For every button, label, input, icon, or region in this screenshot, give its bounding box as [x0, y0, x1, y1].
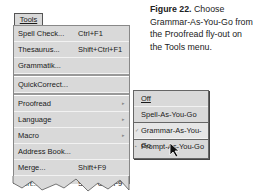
menu-item-grammatik[interactable]: Grammatik...	[14, 58, 129, 74]
menu-item-label: Merge...	[18, 163, 46, 172]
flyout-item-off[interactable]: Off	[134, 91, 208, 107]
menu-item-label: Off	[141, 94, 151, 103]
menu-item-label: Macro	[18, 131, 39, 140]
menu-item-label: Proofread	[18, 99, 51, 108]
submenu-arrow-icon: ▸	[122, 96, 125, 111]
flyout-item-grammar-as-you-go[interactable]: ✓ Grammar-As-You-Go	[134, 123, 208, 139]
figure-number: Figure 22.	[150, 4, 192, 14]
menu-item-label: Thesaurus...	[18, 45, 60, 54]
tools-menu-label: Tools	[20, 15, 38, 24]
shortcut-label: Shift+Ctrl+F1	[78, 42, 122, 57]
torn-edge-decoration	[12, 176, 130, 193]
menu-item-thesaurus[interactable]: Thesaurus... Shift+Ctrl+F1	[14, 42, 129, 58]
submenu-arrow-icon: ▸	[122, 128, 125, 143]
shortcut-label: Shift+F9	[78, 160, 106, 175]
menu-item-quickcorrect[interactable]: QuickCorrect...	[14, 77, 129, 93]
figure-caption: Figure 22. Choose Grammar-As-You-Go from…	[150, 3, 253, 53]
menu-item-label: Language	[18, 115, 51, 124]
check-icon: ✓	[135, 123, 139, 138]
menu-item-address-book[interactable]: Address Book...	[14, 144, 129, 160]
flyout-item-spell-as-you-go[interactable]: Spell-As-You-Go	[134, 107, 208, 123]
mouse-pointer-icon	[169, 142, 181, 158]
menu-item-label: Spell-As-You-Go	[141, 110, 197, 119]
menu-item-merge[interactable]: Merge... Shift+F9	[14, 160, 129, 176]
menu-item-label: Address Book...	[18, 147, 71, 156]
submenu-arrow-icon: ▸	[122, 112, 125, 127]
menu-item-proofread[interactable]: Proofread ▸	[14, 96, 129, 112]
menu-item-macro[interactable]: Macro ▸	[14, 128, 129, 144]
shortcut-label: Ctrl+F1	[78, 26, 103, 41]
menu-item-label: Grammatik...	[18, 61, 61, 70]
menu-item-label: QuickCorrect...	[18, 80, 68, 89]
menu-item-label: Spell Check...	[18, 29, 64, 38]
menu-item-spell-check[interactable]: Spell Check... Ctrl+F1	[14, 26, 129, 42]
menu-item-language[interactable]: Language ▸	[14, 112, 129, 128]
tools-menu: Spell Check... Ctrl+F1 Thesaurus... Shif…	[13, 25, 130, 184]
radio-dot-icon: ▪	[135, 139, 137, 154]
